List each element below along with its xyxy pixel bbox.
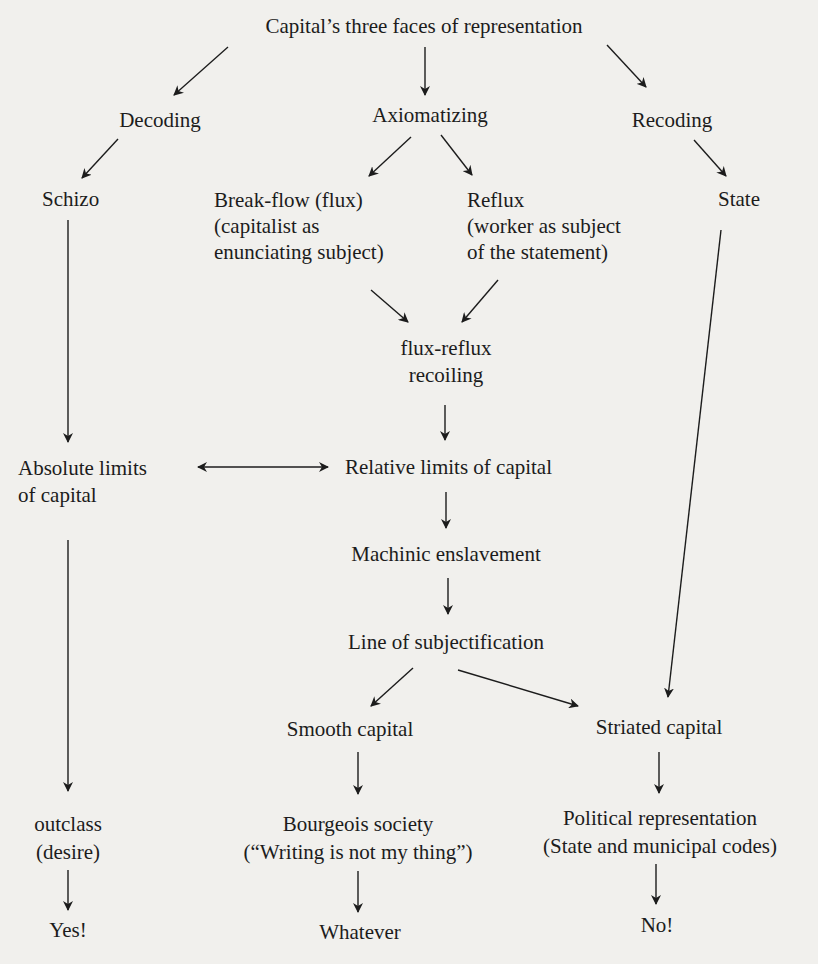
node-label: enunciating subject) — [214, 239, 384, 265]
node-whatever: Whatever — [319, 920, 401, 945]
node-no: No! — [641, 913, 674, 938]
node-label: Bourgeois society — [244, 810, 473, 838]
node-label: (worker as subject — [467, 213, 621, 239]
node-label: Axiomatizing — [372, 103, 487, 128]
node-label: Whatever — [319, 920, 401, 945]
node-label: State — [718, 187, 760, 212]
node-line-of-subjectification: Line of subjectification — [348, 630, 544, 655]
node-label: Schizo — [42, 187, 99, 212]
node-label: (State and municipal codes) — [543, 832, 777, 860]
node-label: Machinic enslavement — [351, 542, 541, 567]
node-outclass: outclass (desire) — [34, 810, 102, 866]
node-decoding: Decoding — [119, 108, 201, 133]
node-axiomatizing: Axiomatizing — [372, 103, 487, 128]
node-label: No! — [641, 913, 674, 938]
node-bourgeois-society: Bourgeois society (“Writing is not my th… — [244, 810, 473, 866]
node-label: Relative limits of capital — [345, 455, 552, 480]
node-label: flux-reflux — [401, 335, 492, 362]
arrow-reflux-fluxreflux — [462, 280, 498, 322]
node-schizo: Schizo — [42, 187, 99, 212]
node-label: Absolute limits — [18, 455, 147, 482]
node-recoding: Recoding — [632, 108, 712, 133]
node-flux-reflux: flux-reflux recoiling — [401, 335, 492, 389]
node-reflux: Reflux (worker as subject of the stateme… — [467, 187, 621, 265]
node-label: Yes! — [49, 918, 87, 943]
node-label: Capital’s three faces of representation — [265, 14, 582, 39]
node-root: Capital’s three faces of representation — [265, 14, 582, 39]
node-label: of the statement) — [467, 239, 621, 265]
node-label: Striated capital — [596, 715, 723, 740]
node-machinic-enslavement: Machinic enslavement — [351, 542, 541, 567]
node-smooth-capital: Smooth capital — [287, 717, 414, 742]
node-label: Line of subjectification — [348, 630, 544, 655]
arrow-root-decoding — [174, 47, 228, 95]
node-label: (“Writing is not my thing”) — [244, 838, 473, 866]
node-label: Recoding — [632, 108, 712, 133]
flow-diagram: Capital’s three faces of representation … — [0, 0, 818, 964]
node-label: Break-flow (flux) — [214, 187, 384, 213]
node-label: Smooth capital — [287, 717, 414, 742]
node-label: (desire) — [34, 838, 102, 866]
arrow-axiomatizing-reflux — [441, 135, 472, 175]
node-label: of capital — [18, 482, 147, 509]
arrow-decoding-schizo — [82, 139, 118, 178]
arrow-breakflow-fluxreflux — [371, 290, 408, 322]
node-label: recoiling — [401, 362, 492, 389]
node-political-representation: Political representation (State and muni… — [543, 804, 777, 860]
node-label: Decoding — [119, 108, 201, 133]
node-absolute-limits: Absolute limits of capital — [18, 455, 147, 509]
node-label: Reflux — [467, 187, 621, 213]
arrow-subjectification-striated — [458, 670, 578, 706]
node-relative-limits: Relative limits of capital — [345, 455, 552, 480]
arrow-subjectification-smooth — [371, 668, 413, 706]
arrow-root-recoding — [607, 45, 646, 87]
arrow-state-striated — [668, 230, 721, 697]
node-label: Political representation — [543, 804, 777, 832]
node-state: State — [718, 187, 760, 212]
node-striated-capital: Striated capital — [596, 715, 723, 740]
node-yes: Yes! — [49, 918, 87, 943]
arrow-axiomatizing-breakflow — [369, 137, 411, 176]
node-label: (capitalist as — [214, 213, 384, 239]
arrow-recoding-state — [694, 140, 726, 176]
node-breakflow: Break-flow (flux) (capitalist as enuncia… — [214, 187, 384, 265]
node-label: outclass — [34, 810, 102, 838]
